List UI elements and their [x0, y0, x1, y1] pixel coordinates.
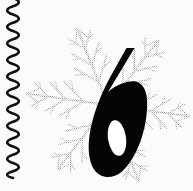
- numeral-six-body: [89, 48, 147, 177]
- numeral-six-glyph: [89, 48, 147, 177]
- numeral-six-svg: [0, 0, 193, 191]
- image-canvas: [0, 0, 193, 191]
- numeral-layer: [0, 0, 193, 191]
